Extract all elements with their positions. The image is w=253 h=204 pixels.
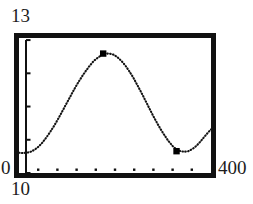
trough-marker [173, 148, 179, 154]
peak-marker [100, 50, 106, 56]
x-axis-tick-dots [37, 169, 193, 171]
y-axis-min-label: 0 [1, 158, 11, 177]
data-curve [19, 54, 211, 153]
x-axis-max-label: 400 [218, 158, 247, 177]
x-axis-min-label: 10 [11, 179, 30, 198]
chart-figure: 13 0 10 400 [0, 0, 253, 204]
y-axis-max-label: 13 [11, 6, 30, 25]
plot-area [14, 33, 216, 178]
